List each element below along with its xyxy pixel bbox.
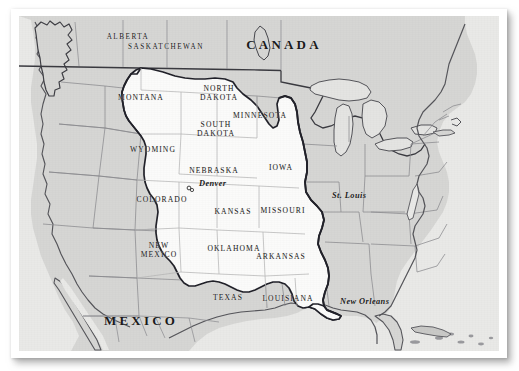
state-label-line: MONTANA (118, 93, 164, 102)
state-label-texas: TEXAS (213, 293, 243, 302)
state-label-line: DAKOTA (197, 129, 235, 138)
state-label-louisiana: LOUISIANA (262, 294, 313, 303)
state-label-line: DAKOTA (200, 93, 238, 102)
map-label-layer: CANADAMEXICOALBERTASASKATCHEWANMONTANANO… (19, 16, 499, 351)
state-label-missouri: MISSOURI (260, 206, 305, 215)
city-label-new-orleans: New Orleans (340, 297, 389, 306)
city-label-denver: Denver (199, 179, 227, 188)
state-label-line: KANSAS (215, 207, 252, 216)
state-label-new-mexico: NEWMEXICO (141, 241, 178, 259)
state-label-line: ARKANSAS (256, 252, 306, 261)
state-label-line: OKLAHOMA (207, 244, 260, 253)
state-label-iowa: IOWA (269, 163, 293, 172)
state-label-line: TEXAS (213, 293, 243, 302)
state-label-montana: MONTANA (118, 93, 164, 102)
state-label-nebraska: NEBRASKA (189, 166, 239, 175)
state-label-line: IOWA (269, 163, 293, 172)
state-label-kansas: KANSAS (215, 207, 252, 216)
state-label-line: LOUISIANA (262, 294, 313, 303)
province-label-saskatchewan: SASKATCHEWAN (128, 43, 204, 51)
country-label-canada: CANADA (246, 37, 322, 53)
state-label-line: MISSOURI (260, 206, 305, 215)
state-label-line: MEXICO (141, 250, 178, 259)
state-label-wyoming: WYOMING (130, 145, 176, 154)
state-label-line: NEBRASKA (189, 166, 239, 175)
map-photo-frame: CANADAMEXICOALBERTASASKATCHEWANMONTANANO… (11, 9, 507, 358)
province-label-alberta: ALBERTA (107, 33, 150, 41)
state-label-arkansas: ARKANSAS (256, 252, 306, 261)
state-label-line: WYOMING (130, 145, 176, 154)
state-label-line: MINNESOTA (233, 111, 287, 120)
country-label-mexico: MEXICO (104, 313, 178, 329)
state-label-line: COLORADO (137, 195, 188, 204)
state-label-south-dakota: SOUTHDAKOTA (197, 120, 235, 138)
city-marker-denver (190, 188, 193, 191)
state-label-north-dakota: NORTHDAKOTA (200, 84, 238, 102)
state-label-line: SOUTH (197, 120, 235, 129)
map-surface: CANADAMEXICOALBERTASASKATCHEWANMONTANANO… (19, 16, 499, 351)
state-label-minnesota: MINNESOTA (233, 111, 287, 120)
state-label-line: NORTH (200, 84, 238, 93)
state-label-colorado: COLORADO (137, 195, 188, 204)
state-label-line: NEW (141, 241, 178, 250)
map-page: CANADAMEXICOALBERTASASKATCHEWANMONTANANO… (0, 0, 519, 371)
state-label-oklahoma: OKLAHOMA (207, 244, 260, 253)
city-label-st-louis: St. Louis (332, 191, 366, 200)
